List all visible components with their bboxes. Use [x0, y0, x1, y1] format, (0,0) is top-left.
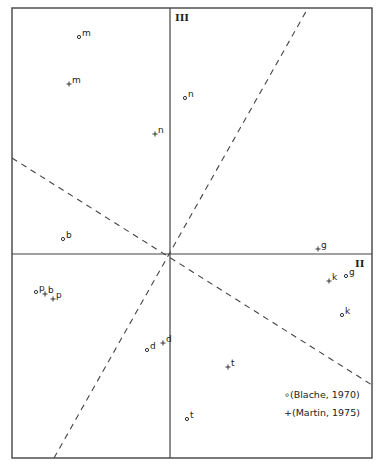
point-label: n [158, 125, 164, 135]
plus-marker-icon [67, 82, 72, 87]
point-label: n [188, 89, 194, 99]
dot-marker-icon [77, 35, 80, 38]
legend-blache: ∘(Blache, 1970) [284, 389, 360, 400]
martin-point-m: m [67, 75, 81, 87]
dot-marker-icon [185, 417, 188, 420]
martin-point-n: n [153, 125, 164, 137]
point-label: p [56, 290, 62, 300]
point-label: p [39, 283, 45, 293]
point-label: t [231, 358, 235, 368]
point-label: t [190, 410, 194, 420]
axis-label-horizontal: II [355, 258, 365, 269]
point-label: d [150, 341, 156, 351]
blache-point-k: k [340, 306, 351, 317]
plus-marker-icon [51, 297, 56, 302]
point-label: m [82, 28, 91, 38]
plus-marker-icon [316, 247, 321, 252]
blache-point-p: p [34, 283, 45, 294]
martin-point-k: k [327, 272, 339, 284]
point-label: g [349, 267, 355, 277]
blache-point-g: g [344, 267, 354, 278]
martin-point-g: g [316, 240, 327, 252]
plus-marker-icon [161, 341, 166, 346]
plus-marker-icon [153, 132, 158, 137]
plus-marker-icon [226, 365, 231, 370]
dot-marker-icon [340, 313, 343, 316]
blache-point-t: t [185, 410, 194, 421]
point-label: m [72, 75, 81, 85]
legend-martin: +(Martin, 1975) [284, 407, 360, 418]
dot-marker-icon [344, 274, 347, 277]
point-label: k [345, 306, 351, 316]
axis-label-vertical: III [175, 12, 189, 23]
scatter-plot: III II mnbpgkdtmnbpgkdt ∘(Blache, 1970) … [0, 0, 381, 468]
point-label: k [332, 272, 338, 282]
blache-point-m: m [77, 28, 90, 39]
dot-marker-icon [145, 348, 148, 351]
dot-marker-icon [183, 96, 186, 99]
dashed-line-1 [12, 158, 372, 385]
dot-marker-icon [61, 237, 64, 240]
blache-point-b: b [61, 230, 72, 241]
blache-point-n: n [183, 89, 193, 100]
plus-marker-icon [327, 279, 332, 284]
martin-point-d: d [161, 334, 172, 346]
blache-point-d: d [145, 341, 155, 352]
point-label: g [321, 240, 327, 250]
dot-marker-icon [34, 290, 37, 293]
point-label: b [66, 230, 72, 240]
dashed-line-2 [54, 8, 308, 458]
data-points: mnbpgkdtmnbpgkdt [34, 28, 354, 421]
martin-point-t: t [226, 358, 236, 370]
point-label: d [166, 334, 172, 344]
point-label: b [48, 285, 54, 295]
